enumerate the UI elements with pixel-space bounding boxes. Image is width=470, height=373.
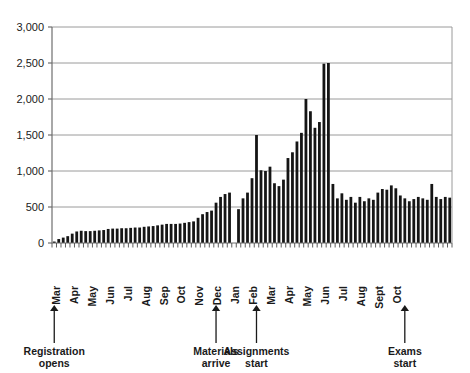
bar — [165, 224, 168, 243]
bar — [188, 222, 191, 243]
bars-series — [53, 63, 451, 243]
bar — [84, 231, 87, 243]
x-tick-label: Nov — [193, 286, 205, 306]
annotation-arrow-head — [401, 305, 409, 311]
bar — [201, 214, 204, 243]
bar — [439, 199, 442, 243]
bar — [107, 229, 110, 243]
bar — [363, 201, 366, 243]
bar — [264, 171, 267, 243]
bar — [228, 193, 231, 243]
bar — [197, 218, 200, 243]
bar-chart: 05001,0001,5002,0002,5003,000 MarAprMayJ… — [0, 0, 470, 373]
y-axis-tick-labels: 05001,0001,5002,0002,5003,000 — [16, 21, 44, 249]
bar — [255, 135, 258, 243]
bar — [323, 64, 326, 243]
x-tick-label: Oct — [391, 286, 403, 304]
x-tick-label: Sept — [373, 286, 385, 309]
bar — [71, 234, 74, 243]
x-axis-tick-labels: MarAprMayJunJulAugSepOctNovDecJanFebMarA… — [50, 286, 404, 309]
x-tick-label: Mar — [50, 286, 62, 305]
bar — [381, 189, 384, 243]
bar — [219, 197, 222, 243]
bar — [435, 197, 438, 243]
bar — [260, 170, 263, 243]
bar — [340, 193, 343, 243]
bar — [291, 152, 294, 243]
bar — [80, 231, 83, 243]
bar — [372, 200, 375, 243]
bar — [354, 203, 357, 243]
bar — [394, 188, 397, 243]
bar — [336, 198, 339, 243]
x-tick-label: Aug — [140, 286, 152, 306]
bar — [282, 180, 285, 243]
bar — [278, 186, 281, 243]
bar — [296, 141, 299, 243]
bar — [224, 194, 227, 243]
bar — [318, 122, 321, 243]
x-tick-label: Apr — [68, 286, 80, 304]
x-tick-label: Dec — [211, 286, 223, 305]
bar — [417, 197, 420, 243]
bar — [273, 183, 276, 243]
bar — [403, 198, 406, 243]
bar — [93, 231, 96, 243]
bar — [179, 224, 182, 243]
bar — [161, 225, 164, 243]
bar — [210, 211, 213, 243]
bar — [134, 228, 137, 243]
x-tick-label: Jun — [319, 286, 331, 305]
x-tick-label: Oct — [175, 286, 187, 304]
bar — [408, 201, 411, 243]
y-tick-label: 2,500 — [16, 57, 44, 69]
bar — [444, 197, 447, 243]
y-tick-label: 1,000 — [16, 165, 44, 177]
bar — [448, 198, 451, 243]
bar — [385, 190, 388, 243]
bar — [242, 198, 245, 243]
bar — [170, 224, 173, 243]
x-tick-label: Jul — [122, 286, 134, 301]
bar — [376, 193, 379, 243]
annotation-label-assignments-start: Assignments — [224, 345, 290, 357]
y-tick-label: 0 — [38, 237, 44, 249]
bar — [305, 99, 308, 243]
bar — [156, 225, 159, 243]
bar — [206, 212, 209, 243]
bar — [125, 228, 128, 243]
annotation-arrow-head — [252, 305, 260, 311]
annotations: RegistrationopensMaterialsarriveAssignme… — [24, 305, 422, 369]
annotation-label-exams-start-line2: start — [393, 357, 416, 369]
bar — [129, 228, 132, 243]
bar — [192, 221, 195, 243]
bar — [66, 236, 69, 243]
bar — [349, 197, 352, 243]
bar — [412, 199, 415, 243]
annotation-label-registration-opens: Registration — [24, 345, 85, 357]
bar — [215, 203, 218, 243]
x-tick-label: Jul — [337, 286, 349, 301]
bar — [332, 184, 335, 243]
x-tick-label: Aug — [355, 286, 367, 306]
bar — [309, 111, 312, 243]
x-tick-label: Apr — [283, 286, 295, 304]
bar — [426, 200, 429, 243]
bar — [102, 230, 105, 243]
bar — [138, 228, 141, 243]
bar — [399, 195, 402, 243]
y-tick-label: 3,000 — [16, 21, 44, 33]
bar — [174, 224, 177, 243]
y-tick-label: 500 — [26, 201, 44, 213]
bar — [390, 185, 393, 243]
bar — [89, 231, 92, 243]
x-tick-label: May — [301, 286, 313, 307]
bar — [147, 226, 150, 243]
annotation-label-assignments-start-line2: start — [245, 357, 268, 369]
annotation-arrow-head — [50, 305, 58, 311]
x-tick-label: Jan — [229, 286, 241, 304]
bar — [327, 63, 330, 243]
bar — [367, 198, 370, 243]
bar — [421, 198, 424, 243]
bar — [358, 197, 361, 243]
